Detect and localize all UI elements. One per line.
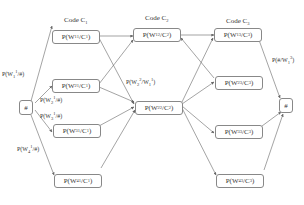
edge-label-start-w3: P(W31/#) [40,113,62,119]
edge-label-start-w2: P(W21/#) [40,97,62,103]
end-node-label: # [284,102,288,110]
label-text: 2 [137,82,139,87]
column-title-text: Code C [64,16,85,24]
column-title-c2: Code C2 [145,14,168,22]
label-text: 3 [51,116,53,121]
label-text: ) [89,127,91,135]
label-text: P(W [40,97,51,103]
label-text: P(W [225,128,238,136]
node-c2-w1: P(W12/C2) [133,28,181,42]
label-text: /C [162,104,169,112]
node-c1-w3: P(W31/C1) [53,124,101,138]
label-text: /#) [33,146,40,152]
column-title-c3: Code C3 [226,17,249,25]
node-c1-w1: P(W11/C1) [52,30,100,44]
label-text: /#) [18,71,25,77]
node-c1-w2: P(W21/C1) [52,79,100,93]
start-node: # [19,100,33,115]
label-text: P(W [224,31,237,39]
label-text: P(W [63,127,76,135]
label-text: /C [243,177,250,185]
label-text: ) [252,177,254,185]
node-c3-w2: P(W23/C3) [215,76,263,90]
label-text: ) [171,104,173,112]
label-text: P(W [17,146,28,152]
label-text: P(W [145,104,158,112]
label-text: P(W [126,79,137,85]
node-c1-w4: P(W41/C1) [54,174,102,188]
start-node-label: # [24,104,28,112]
label-text: /C [241,31,248,39]
column-title-sub: 2 [166,18,168,23]
label-text: P(W [225,79,238,87]
node-c3-w3: P(W33/C3) [215,125,263,139]
node-c3-w4: P(W43/C3) [216,174,264,188]
label-text: P(W [226,177,239,185]
label-text: /C [242,79,249,87]
codebook-trellis-diagram: Code C1 Code C2 Code C3 # # P(W11/C1) P(… [0,0,304,205]
label-text: P(W [64,177,77,185]
edge-label-c1-c2-transition: P(W22/W11) [126,79,155,85]
label-text: ) [251,128,253,136]
label-text: 1 [149,82,151,87]
label-text: P(W [62,82,75,90]
column-title-sub: 3 [247,21,249,26]
column-title-text: Code C [145,14,166,22]
label-text: /C [80,127,87,135]
label-text: /C [160,31,167,39]
column-title-sub: 1 [85,20,87,25]
label-text: ) [250,31,252,39]
label-text: ) [292,57,294,63]
label-text: ) [251,79,253,87]
node-c2-w2: P(W22/C2) [135,101,183,115]
label-text: 1 [13,74,15,79]
label-text: /W [142,79,149,85]
label-text: /C [242,128,249,136]
label-text: /C [81,177,88,185]
label-text: 2 [51,100,53,105]
label-text: ) [90,177,92,185]
label-text: ) [88,82,90,90]
label-text: /#) [56,97,63,103]
node-c3-w1: P(W13/C3) [214,28,262,42]
label-text: /#) [56,113,63,119]
label-text: P(W [40,113,51,119]
label-text: 4 [28,149,30,154]
label-text: P(W [62,33,75,41]
label-text: ) [153,79,155,85]
edge-label-start-w1: P(W11/#) [2,71,24,77]
label-text: /C [79,33,86,41]
label-text: P(W [143,31,156,39]
label-text: /C [79,82,86,90]
label-text: ) [88,33,90,41]
label-text: P(#/W [272,57,288,63]
end-node: # [279,98,293,113]
label-text: ) [169,31,171,39]
label-text: 1 [288,60,290,65]
edge-label-start-w4: P(W41/#) [17,146,39,152]
column-title-text: Code C [226,17,247,25]
label-text: P(W [2,71,13,77]
edge-label-end: P(#/W13) [272,57,294,63]
column-title-c1: Code C1 [64,16,87,24]
